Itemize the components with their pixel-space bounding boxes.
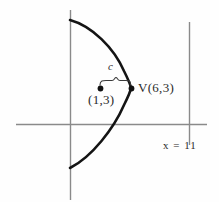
focal-distance-label: c (108, 60, 113, 72)
focus-point-dot (98, 86, 104, 92)
parabola-figure: V(6,3) (1,3) c x = 11 (0, 0, 219, 202)
focus-label: (1,3) (88, 92, 114, 108)
vertex-label: V(6,3) (138, 80, 174, 96)
focal-distance-brace (100, 78, 131, 86)
vertex-point-dot (129, 86, 135, 92)
directrix-label: x = 11 (163, 139, 197, 151)
